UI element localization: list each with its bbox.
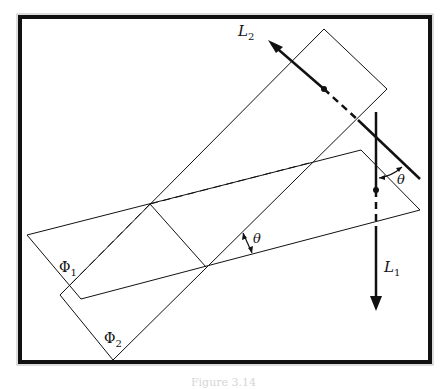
theta-lines-label: θ	[397, 172, 405, 187]
intersection-line	[150, 204, 206, 267]
arrow-head-l1	[370, 296, 382, 311]
plane-phi1	[27, 150, 420, 299]
l1-label: L1	[383, 258, 400, 278]
angle-arc-lines: θ	[379, 167, 405, 187]
plane-phi2	[60, 29, 387, 360]
phi2-label: Φ2	[104, 330, 122, 349]
line-l2: L2	[237, 22, 420, 179]
point-l1	[373, 187, 379, 193]
phi1-label: Φ1	[59, 259, 77, 278]
figure-caption: Figure 3.14	[0, 376, 447, 389]
theta-planes-label: θ	[253, 231, 261, 246]
point-l2	[321, 86, 327, 92]
line-l1: L1	[370, 112, 400, 311]
frame	[17, 14, 433, 365]
l2-label: L2	[237, 22, 254, 42]
angle-arc-planes: θ	[242, 231, 261, 253]
